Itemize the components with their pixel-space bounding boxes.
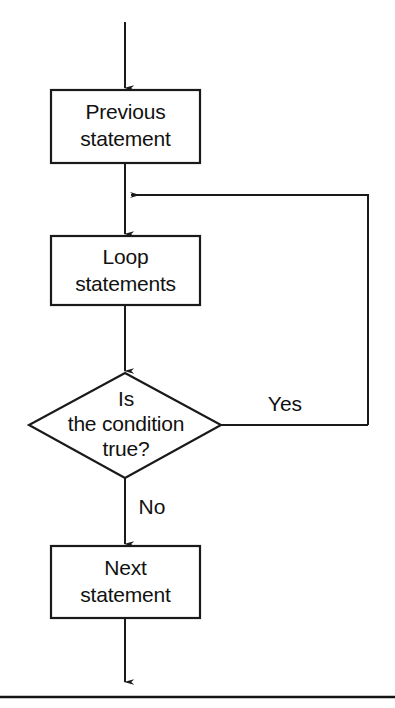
node-condition-line1: Is	[118, 387, 134, 410]
node-condition-line2: the condition	[68, 412, 185, 435]
flowchart-svg: Previous statement Loop statements Is th…	[0, 0, 395, 708]
node-previous-statement-line2: statement	[80, 127, 171, 150]
edge-yes-feedback-path	[131, 195, 368, 425]
node-loop-statements-line2: statements	[75, 272, 176, 295]
edge-label-no: No	[139, 495, 166, 518]
node-condition-line3: true?	[103, 437, 150, 460]
node-loop-statements-line1: Loop	[103, 245, 149, 268]
flowchart-canvas: Previous statement Loop statements Is th…	[0, 0, 395, 708]
node-next-statement-line1: Next	[104, 556, 147, 579]
node-previous-statement-line1: Previous	[85, 100, 165, 123]
node-next-statement-line2: statement	[80, 583, 171, 606]
edge-label-yes: Yes	[268, 392, 302, 415]
